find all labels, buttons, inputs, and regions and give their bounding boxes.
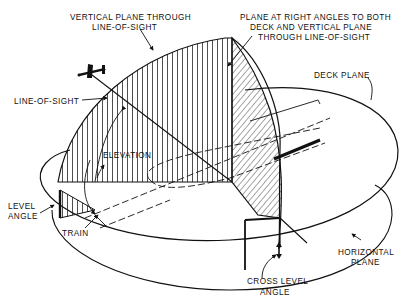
label-vertical-plane-1: VERTICAL PLANE THROUGH xyxy=(70,13,191,22)
label-cross-level-1: CROSS LEVEL xyxy=(247,277,308,286)
label-cross-level-2: ANGLE xyxy=(260,288,290,297)
label-horizontal-plane-1: HORIZONTAL xyxy=(338,248,394,257)
vertical-plane-through-line-of-sight xyxy=(58,38,232,218)
label-horizontal-plane-2: PLANE xyxy=(351,258,380,267)
label-line-of-sight: LINE-OF-SIGHT xyxy=(14,97,79,106)
label-level-angle-2: ANGLE xyxy=(8,212,38,221)
label-deck-plane: DECK PLANE xyxy=(314,71,370,80)
label-right-angle-plane-2: DECK AND VERTICAL PLANE xyxy=(250,23,372,32)
label-right-angle-plane-1: PLANE AT RIGHT ANGLES TO BOTH xyxy=(240,13,391,22)
aircraft-silhouette-icon xyxy=(78,64,107,78)
label-train: TRAIN xyxy=(62,229,89,238)
cross-level-indicator xyxy=(276,242,282,259)
label-right-angle-plane-3: THROUGH LINE-OF-SIGHT xyxy=(258,33,370,42)
label-level-angle-1: LEVEL xyxy=(8,202,36,211)
label-vertical-plane-2: LINE-OF-SIGHT xyxy=(92,23,157,32)
label-elevation: ELEVATION xyxy=(103,151,151,160)
line-of-sight-diagram: VERTICAL PLANE THROUGH LINE-OF-SIGHT PLA… xyxy=(0,0,406,302)
